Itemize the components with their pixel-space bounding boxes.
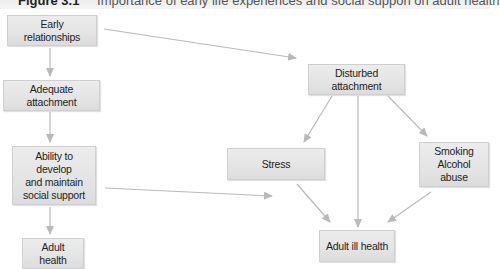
edge-early-to-disturbed [104, 29, 296, 58]
edge-smoking-to-ill-health [388, 192, 431, 222]
node-label: Early relationships [12, 18, 92, 44]
node-label: Disturbed attachment [313, 67, 400, 93]
node-adult-ill-health: Adult ill health [319, 230, 395, 262]
node-label: Stress [262, 158, 291, 171]
node-early-relationships: Early relationships [7, 15, 97, 46]
node-stress: Stress [227, 148, 325, 180]
node-label: Adequate attachment [8, 83, 95, 109]
node-adequate-attachment: Adequate attachment [3, 80, 100, 111]
node-smoking-alcohol: Smoking Alcohol abuse [419, 142, 489, 187]
edge-disturbed-to-smoking [388, 96, 427, 136]
node-label: Ability to develop and maintain social s… [17, 150, 91, 202]
edge-disturbed-to-stress [304, 96, 332, 142]
node-label: Adult health [27, 241, 79, 267]
edge-stress-to-ill-health [297, 184, 330, 222]
node-disturbed-attachment: Disturbed attachment [308, 64, 405, 95]
node-ability-social-support: Ability to develop and maintain social s… [12, 146, 96, 205]
node-label: Smoking Alcohol abuse [424, 145, 484, 184]
edge-ability-to-ill-health [105, 188, 272, 196]
node-label: Adult ill health [326, 240, 388, 253]
node-adult-health: Adult health [22, 238, 84, 269]
